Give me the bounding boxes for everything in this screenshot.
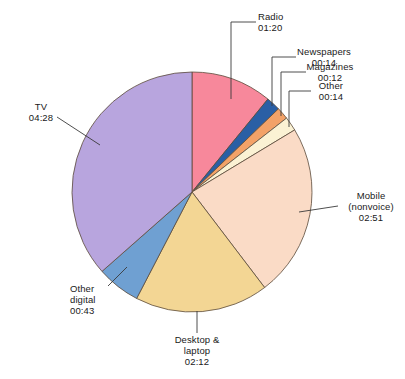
pie-chart-figure: Radio 01:20 Newspapers 00:14 Magazines 0… [0,0,405,379]
label-desktop-value: 02:12 [160,356,234,367]
label-other-name: Other [307,80,355,91]
label-other: Other 00:14 [307,80,355,102]
label-magazines-name: Magazines [299,61,361,72]
label-radio-name: Radio [258,11,283,22]
label-mobile-name: Mobile [341,190,401,201]
label-other-digital-name: Other [70,283,96,294]
pie-slice-group [72,72,312,312]
label-mobile: Mobile (nonvoice) 02:51 [341,190,401,224]
label-desktop-name: Desktop & [160,334,234,345]
label-other-digital-value: 00:43 [70,305,96,316]
label-radio-value: 01:20 [258,22,283,33]
label-radio: Radio 01:20 [258,11,283,33]
label-desktop: Desktop & laptop 02:12 [160,334,234,368]
label-other-digital: Other digital 00:43 [70,283,96,317]
label-other-digital-subname: digital [70,294,96,305]
label-tv-value: 04:28 [20,112,62,123]
label-desktop-subname: laptop [160,345,234,356]
label-tv-name: TV [20,101,62,112]
label-newspapers-name: Newspapers [293,46,355,57]
label-tv: TV 04:28 [20,101,62,123]
label-mobile-subname: (nonvoice) [341,201,401,212]
label-other-value: 00:14 [307,91,355,102]
label-mobile-value: 02:51 [341,212,401,223]
